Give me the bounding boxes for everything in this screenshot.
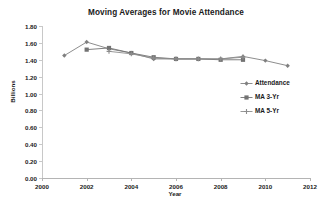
data-point-marker <box>85 48 89 52</box>
data-point-marker <box>244 109 249 114</box>
x-tick-label: 2012 <box>303 183 317 190</box>
data-point-marker <box>84 40 88 44</box>
legend-item-ma-3-yr[interactable]: MA 3-Yr <box>240 90 290 104</box>
data-point-marker <box>62 53 66 57</box>
x-tick-label: 2006 <box>169 183 183 190</box>
x-tick <box>265 178 266 181</box>
y-tick-label: 1.60 <box>25 39 37 46</box>
data-point-marker <box>285 63 289 67</box>
data-point-marker <box>263 58 267 62</box>
y-tick-label: 1.40 <box>25 56 37 63</box>
x-tick <box>310 178 311 181</box>
chart-container: Moving Averages for Movie Attendance Bil… <box>0 0 332 204</box>
y-tick-label: 0.00 <box>25 175 37 182</box>
y-tick-label: 1.20 <box>25 73 37 80</box>
x-tick <box>87 178 88 181</box>
legend-item-label: MA 3-Yr <box>255 94 279 100</box>
data-point-marker <box>244 95 248 99</box>
y-tick-label: 0.40 <box>25 141 37 148</box>
legend-item-label: Attendance <box>255 80 290 86</box>
legend-marker-icon <box>240 107 253 116</box>
x-tick-label: 2004 <box>124 183 138 190</box>
chart-legend: AttendanceMA 3-YrMA 5-Yr <box>240 76 290 118</box>
y-tick-label: 1.80 <box>25 23 37 30</box>
series-line-attendance <box>64 42 287 66</box>
x-tick-label: 2002 <box>80 183 94 190</box>
y-tick-label: 0.20 <box>25 158 37 165</box>
legend-item-label: MA 5-Yr <box>255 108 279 114</box>
y-tick-label: 0.60 <box>25 124 37 131</box>
x-tick-label: 2000 <box>35 183 49 190</box>
x-tick <box>131 178 132 181</box>
x-tick-label: 2008 <box>214 183 228 190</box>
legend-item-ma-5-yr[interactable]: MA 5-Yr <box>240 104 290 118</box>
x-tick <box>42 178 43 181</box>
x-tick <box>176 178 177 181</box>
y-tick-label: 1.00 <box>25 90 37 97</box>
x-axis-title: Year <box>40 190 310 197</box>
chart-title: Moving Averages for Movie Attendance <box>0 8 332 17</box>
x-tick-label: 2010 <box>258 183 272 190</box>
data-point-marker <box>244 81 248 85</box>
legend-marker-icon <box>240 93 253 102</box>
legend-marker-icon <box>240 79 253 88</box>
y-tick-label: 0.80 <box>25 107 37 114</box>
y-axis-title: Billions <box>9 62 16 122</box>
x-tick <box>221 178 222 181</box>
legend-item-attendance[interactable]: Attendance <box>240 76 290 90</box>
